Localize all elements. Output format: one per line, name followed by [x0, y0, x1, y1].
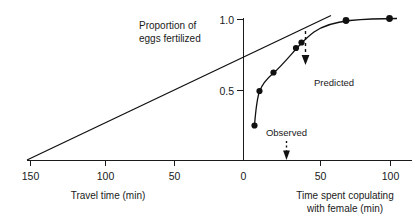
right-tick-label-100: 100: [382, 170, 400, 182]
figure-container: 1.0 0.5 Proportion of eggs fertilized 15…: [0, 0, 416, 220]
predicted-arrow-head: [302, 55, 310, 65]
observed-label: Observed: [266, 127, 307, 138]
data-point-2: [256, 88, 262, 94]
right-axis-title-line2: with female (min): [306, 203, 383, 214]
left-tick-label-100: 100: [97, 170, 115, 182]
right-axis-title-line1: Time spent copulating: [296, 190, 393, 201]
predicted-label: Predicted: [314, 77, 354, 88]
data-point-3: [270, 69, 276, 75]
y-tick-label-0-5: 0.5: [219, 85, 234, 97]
data-point-5: [298, 39, 304, 45]
left-tick-label-0: 0: [241, 170, 247, 182]
y-tick-label-1-0: 1.0: [219, 14, 234, 26]
data-point-7: [386, 15, 393, 22]
left-tick-label-150: 150: [22, 170, 40, 182]
data-point-1: [251, 122, 257, 128]
observed-arrow-head: [283, 151, 290, 161]
chart-canvas: 1.0 0.5 Proportion of eggs fertilized 15…: [0, 0, 416, 220]
data-point-6: [343, 17, 350, 24]
data-point-4: [293, 45, 299, 51]
y-axis-title-line1: Proportion of: [139, 20, 196, 31]
left-axis-title: Travel time (min): [71, 190, 146, 201]
y-axis-title-line2: eggs fertilized: [139, 33, 201, 44]
right-tick-label-50: 50: [315, 170, 327, 182]
left-tick-label-50: 50: [169, 170, 181, 182]
